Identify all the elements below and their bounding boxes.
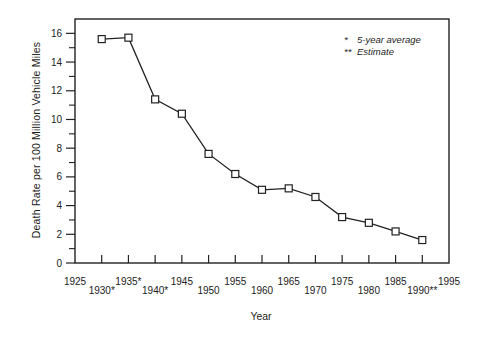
data-point-marker (205, 150, 212, 157)
y-tick-label: 2 (56, 229, 62, 240)
data-point-marker (339, 214, 346, 221)
series-line (102, 38, 423, 240)
data-point-marker (98, 36, 105, 43)
x-tick-label: 1925 (64, 276, 87, 287)
x-tick-label: 1965 (278, 276, 301, 287)
data-point-marker (312, 193, 319, 200)
legend: * 5-year average ** Estimate (344, 34, 421, 58)
data-point-marker (365, 219, 372, 226)
legend-item: ** Estimate (344, 46, 421, 58)
x-tick-label: 1985 (384, 276, 407, 287)
data-point-marker (125, 34, 132, 41)
y-tick-label: 0 (56, 258, 62, 269)
x-tick-label: 1955 (224, 276, 247, 287)
data-point-marker (285, 185, 292, 192)
legend-symbol-double-asterisk: ** (344, 46, 357, 58)
x-tick-label: 1995 (438, 276, 461, 287)
x-tick-label: 1950 (197, 285, 220, 296)
y-tick-label: 6 (56, 171, 62, 182)
legend-item: * 5-year average (344, 34, 421, 46)
x-tick-label: 1975 (331, 276, 354, 287)
y-tick-label: 16 (51, 28, 63, 39)
y-tick-label: 10 (51, 114, 63, 125)
x-tick-label: 1935* (115, 276, 141, 287)
data-point-marker (259, 186, 266, 193)
legend-text: Estimate (357, 46, 394, 58)
x-tick-label: 1960 (251, 285, 274, 296)
data-point-marker (392, 228, 399, 235)
data-point-marker (152, 96, 159, 103)
data-point-marker (232, 171, 239, 178)
x-tick-label: 1980 (358, 285, 381, 296)
x-tick-label: 1990** (407, 285, 437, 296)
y-tick-label: 4 (56, 200, 62, 211)
data-point-marker (178, 110, 185, 117)
legend-text: 5-year average (357, 34, 421, 46)
y-tick-label: 14 (51, 57, 63, 68)
line-chart-figure: 024681012141619251930*1935*1940*19451950… (0, 0, 483, 341)
y-axis-title: Death Rate per 100 Million Vehicle Miles (30, 42, 42, 239)
y-tick-label: 12 (51, 85, 63, 96)
y-tick-label: 8 (56, 143, 62, 154)
legend-symbol-asterisk: * (344, 34, 357, 46)
data-point-marker (419, 237, 426, 244)
x-axis-title: Year (250, 310, 271, 322)
x-tick-label: 1945 (171, 276, 194, 287)
x-tick-label: 1970 (304, 285, 327, 296)
x-tick-label: 1940* (142, 285, 168, 296)
x-tick-label: 1930* (89, 285, 115, 296)
